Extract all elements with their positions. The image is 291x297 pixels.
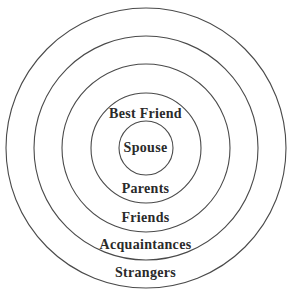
label-parents: Parents (0, 181, 291, 197)
label-strangers: Strangers (0, 265, 291, 281)
label-spouse: Spouse (0, 140, 291, 156)
label-acquaintances: Acquaintances (0, 237, 291, 253)
label-best-friend: Best Friend (0, 106, 291, 122)
label-friends: Friends (0, 210, 291, 226)
